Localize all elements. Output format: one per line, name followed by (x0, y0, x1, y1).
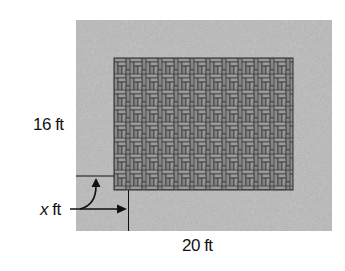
unit-ft: ft (52, 200, 60, 219)
brick-patio (114, 58, 293, 190)
patio-diagram (0, 0, 345, 271)
height-label: 16 ft (33, 116, 64, 133)
height-label-text: 16 ft (33, 115, 64, 134)
width-label-text: 20 ft (182, 236, 213, 255)
border-width-label: x ft (40, 201, 61, 218)
width-label: 20 ft (182, 237, 213, 254)
variable-x: x (40, 200, 48, 219)
